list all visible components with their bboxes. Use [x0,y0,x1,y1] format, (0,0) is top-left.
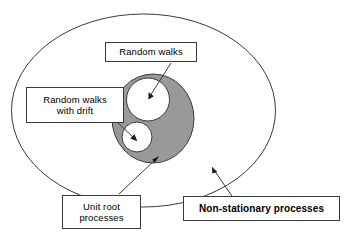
label-non-stationary-processes: Non-stationary processes [183,196,340,221]
random-walks-with-drift-circle [122,122,152,152]
label-unit-root-processes: Unit root processes [62,195,141,229]
label-random-walks-with-drift: Random walks with drift [26,87,124,123]
label-random-walks: Random walks [105,42,197,62]
random-walks-circle [127,78,170,121]
figure-canvas: Random walks Random walks with drift Uni… [0,0,354,238]
